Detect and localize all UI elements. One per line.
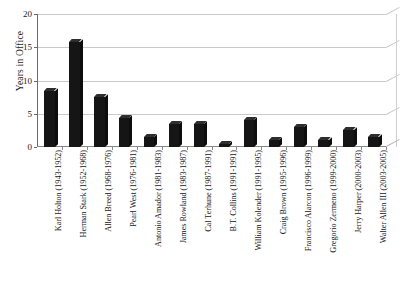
bar[interactable] (69, 42, 79, 147)
gridline-depth-edge (386, 40, 400, 48)
bar[interactable] (244, 120, 254, 147)
bar-side-face (129, 116, 132, 147)
bar-side-face (154, 134, 157, 147)
bar-side-face (105, 94, 108, 147)
bar-front-face (294, 127, 304, 147)
x-axis-category-label: Jerry Harper (2000-2003) (353, 150, 365, 290)
bar[interactable] (169, 124, 179, 147)
bar-side-face (229, 141, 232, 147)
bar-side-face (80, 39, 83, 147)
x-axis-category-label: Walter Allen III (2003-2005) (378, 150, 390, 290)
bar-front-face (119, 118, 129, 147)
y-tick-label: 5 (28, 109, 33, 119)
x-axis-labels-group: Karl Holton (1943-1952)Herman Stark (195… (37, 150, 397, 300)
bar-front-face (144, 137, 154, 147)
bar-front-face (194, 124, 204, 147)
y-tick-mark (34, 147, 37, 148)
bar-side-face (55, 88, 58, 147)
y-tick-label: 0 (28, 142, 33, 152)
gridline-depth-edge (386, 7, 400, 15)
x-axis-category-label: James Rowland (1983-1987) (178, 150, 190, 290)
x-axis-category-label: Gregorio Zermeno (1999-2000) (328, 150, 340, 290)
x-axis-category-label: B.T. Collins (1991-1991) (228, 150, 240, 290)
y-tick-label: 20 (23, 9, 32, 19)
bar-front-face (244, 120, 254, 147)
bar[interactable] (343, 130, 353, 147)
bar[interactable] (269, 140, 279, 147)
x-axis-category-label: Pearl West (1976-1981) (128, 150, 140, 290)
bar[interactable] (318, 140, 328, 147)
bar-side-face (329, 138, 332, 147)
x-axis-category-label: Karl Holton (1943-1952) (53, 150, 65, 290)
bar-front-face (219, 144, 229, 147)
bar-side-face (304, 124, 307, 147)
bar-front-face (269, 140, 279, 147)
bar[interactable] (94, 97, 104, 147)
bar-side-face (179, 121, 182, 147)
back-wall-edge (396, 14, 397, 147)
bars-group (37, 14, 386, 147)
bar-front-face (318, 140, 328, 147)
gridline-depth-edge (386, 107, 400, 115)
floor-depth-edge (386, 139, 400, 147)
bar[interactable] (44, 91, 54, 147)
bar-side-face (354, 128, 357, 147)
x-axis-category-label: William Kolender (1991-1995) (253, 150, 265, 290)
bar[interactable] (368, 137, 378, 147)
bar-side-face (279, 138, 282, 147)
bar-front-face (69, 42, 79, 147)
bar-front-face (343, 130, 353, 147)
bar-front-face (169, 124, 179, 147)
x-axis-category-label: Francisco Alarcon (1996-1999) (303, 150, 315, 290)
bar-front-face (368, 137, 378, 147)
x-axis-category-label: Herman Stark (1952-1968) (78, 150, 90, 290)
bar-front-face (44, 91, 54, 147)
x-axis-category-label: Cal Terhune (1987-1991) (203, 150, 215, 290)
bar[interactable] (294, 127, 304, 147)
x-axis-category-label: Antonio Amador (1981-1983) (153, 150, 165, 290)
x-axis-category-label: Craig Brown (1995-1996) (278, 150, 290, 290)
bar-front-face (94, 97, 104, 147)
gridline-depth-edge (386, 73, 400, 81)
y-tick-label: 15 (23, 42, 32, 52)
plot-area: 05101520 (37, 14, 397, 147)
y-tick-label: 10 (23, 76, 32, 86)
x-axis-category-label: Allen Breed (1968-1976) (103, 150, 115, 290)
bar[interactable] (194, 124, 204, 147)
bar[interactable] (219, 144, 229, 147)
bar-chart-figure: Years in Office 05101520 Karl Holton (19… (0, 0, 409, 306)
y-axis-title: Years in Office (15, 11, 25, 111)
bar[interactable] (144, 137, 154, 147)
bar-side-face (204, 121, 207, 147)
bar-side-face (379, 134, 382, 147)
bar-side-face (254, 118, 257, 147)
bar[interactable] (119, 118, 129, 147)
